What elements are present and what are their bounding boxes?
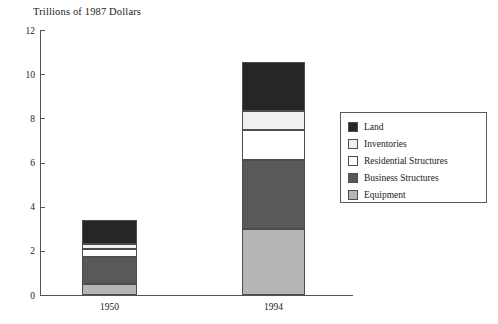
legend-swatch-icon	[348, 173, 358, 183]
stacked-bar-chart: Trillions of 1987 Dollars 024681012 1950…	[0, 0, 498, 324]
bar-segment-1994-residential-structures	[242, 130, 305, 160]
legend-label: Inventories	[364, 139, 407, 149]
x-tick-label-1950: 1950	[82, 302, 137, 312]
legend-swatch-icon	[348, 139, 358, 149]
bar-1994	[242, 62, 305, 295]
bar-segment-1994-equipment	[242, 229, 305, 295]
bar-segment-1950-residential-structures	[82, 249, 137, 258]
bar-1950	[82, 220, 137, 295]
legend-swatch-icon	[348, 122, 358, 132]
legend-label: Business Structures	[364, 173, 439, 183]
legend-item-inventories: Inventories	[348, 136, 486, 152]
bar-segment-1950-land	[82, 220, 137, 244]
y-tick-label: 4	[30, 202, 35, 212]
chart-title: Trillions of 1987 Dollars	[33, 6, 141, 17]
bar-segment-1994-business-structures	[242, 160, 305, 228]
x-axis-line	[40, 295, 353, 296]
legend-item-business-structures: Business Structures	[348, 170, 486, 186]
legend-swatch-icon	[348, 190, 358, 200]
bar-segment-1994-inventories	[242, 111, 305, 131]
y-tick-mark	[40, 163, 45, 164]
legend-item-land: Land	[348, 119, 486, 135]
y-tick-mark	[40, 118, 45, 119]
legend-label: Land	[364, 122, 384, 132]
legend-label: Equipment	[364, 190, 406, 200]
bar-segment-1950-business-structures	[82, 257, 137, 284]
y-tick-mark	[40, 30, 45, 31]
y-tick-label: 10	[26, 70, 36, 80]
y-tick-label: 0	[30, 291, 35, 301]
legend-items: LandInventoriesResidential StructuresBus…	[348, 119, 486, 203]
legend-label: Residential Structures	[364, 156, 448, 166]
legend-item-residential-structures: Residential Structures	[348, 153, 486, 169]
y-tick-label: 12	[26, 26, 36, 36]
y-tick-label: 8	[30, 114, 35, 124]
bar-segment-1950-inventories	[82, 244, 137, 248]
chart-legend: LandInventoriesResidential StructuresBus…	[340, 112, 487, 203]
y-tick-label: 2	[30, 246, 35, 256]
x-tick-label-1994: 1994	[242, 302, 305, 312]
y-tick-label: 6	[30, 158, 35, 168]
y-tick-mark	[40, 207, 45, 208]
y-tick-mark	[40, 74, 45, 75]
y-tick-mark	[40, 251, 45, 252]
bar-segment-1950-equipment	[82, 284, 137, 295]
y-tick-mark	[40, 295, 45, 296]
bar-segment-1994-land	[242, 62, 305, 111]
legend-item-equipment: Equipment	[348, 187, 486, 203]
legend-swatch-icon	[348, 156, 358, 166]
